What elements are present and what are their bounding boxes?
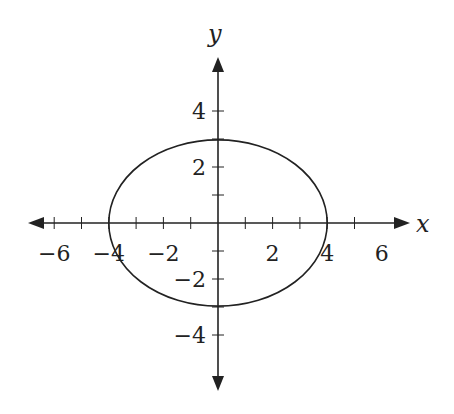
y-tick-label: 4 (192, 99, 206, 124)
x-tick-label: 4 (320, 241, 334, 266)
y-tick-label: −4 (174, 323, 206, 348)
x-tick-label: 2 (266, 241, 280, 266)
x-axis-right-arrow-icon (394, 217, 410, 229)
x-axis-label: x (416, 210, 430, 238)
y-axis-up-arrow-icon (212, 57, 224, 72)
y-axis-down-arrow-icon (212, 376, 224, 391)
x-axis (28, 217, 410, 229)
x-tick-label: −4 (93, 241, 125, 266)
y-tick-label: −2 (174, 267, 206, 292)
x-tick-label: 6 (375, 241, 389, 266)
x-axis-left-arrow-icon (28, 217, 44, 229)
x-tick-label: −6 (38, 241, 70, 266)
y-tick-label: 2 (192, 155, 206, 180)
y-axis-label: y (207, 20, 222, 48)
y-axis (212, 57, 224, 391)
ellipse-plot: x y −6−4−2246 42−2−4 (0, 0, 454, 414)
x-tick-label: −2 (147, 241, 179, 266)
